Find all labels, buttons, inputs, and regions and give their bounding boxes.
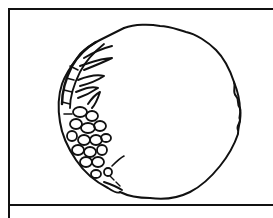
crescent-illustration bbox=[0, 0, 273, 218]
outer-outline bbox=[120, 25, 241, 199]
